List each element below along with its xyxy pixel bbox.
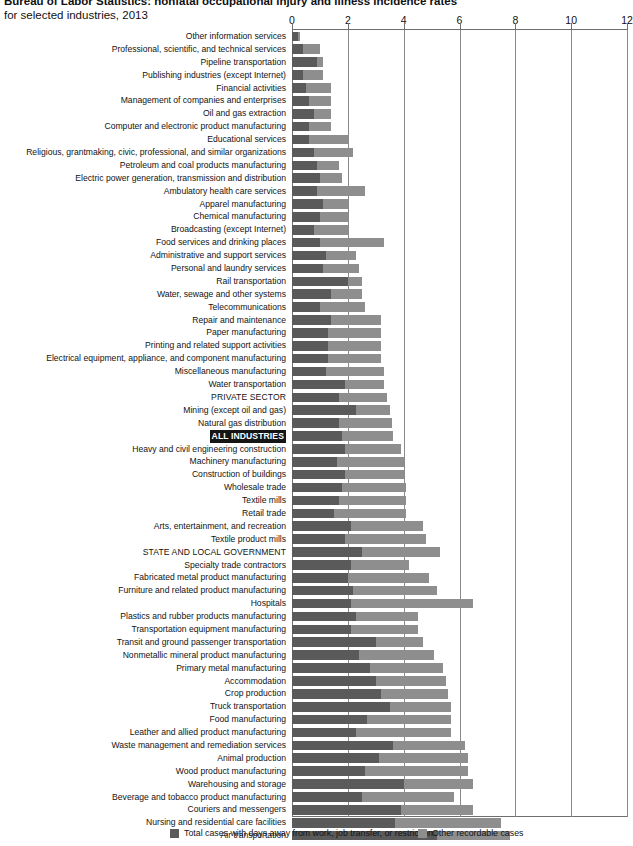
bar-segment-days-away <box>292 483 342 493</box>
bar-segment-other-recordable <box>339 496 406 506</box>
bar-segment-other-recordable <box>331 315 381 325</box>
stacked-bar <box>292 625 418 635</box>
bar-segment-other-recordable <box>320 302 365 312</box>
bar-row: Petroleum and coal products manufacturin… <box>0 159 631 172</box>
category-label: Food services and drinking places <box>156 236 286 249</box>
bar-segment-other-recordable <box>323 264 359 274</box>
bar-segment-other-recordable <box>342 431 392 441</box>
bar-row: Wholesale trade <box>0 481 631 494</box>
bar-segment-other-recordable <box>376 676 446 686</box>
x-tick-mark-12 <box>627 23 628 30</box>
category-label: Chemical manufacturing <box>193 210 286 223</box>
bar-segment-other-recordable <box>328 341 381 351</box>
bar-segment-other-recordable <box>303 44 320 54</box>
stacked-bar <box>292 779 473 789</box>
bar-segment-days-away <box>292 225 314 235</box>
bar-segment-other-recordable <box>339 418 392 428</box>
bar-segment-other-recordable <box>404 779 474 789</box>
bar-segment-days-away <box>292 509 334 519</box>
chart-title-line-1: Bureau of Labor Statistics: nonfatal occ… <box>4 0 564 9</box>
bar-segment-other-recordable <box>345 470 404 480</box>
bar-row: Religious, grantmaking, civic, professio… <box>0 146 631 159</box>
bar-row: Telecommunications <box>0 301 631 314</box>
stacked-bar <box>292 135 348 145</box>
bar-row: Electric power generation, transmission … <box>0 172 631 185</box>
legend-swatch-dark-icon <box>170 829 179 838</box>
bar-segment-other-recordable <box>362 547 440 557</box>
category-label: Food manufacturing <box>210 713 286 726</box>
stacked-bar <box>292 766 468 776</box>
category-label: Publishing industries (except Internet) <box>142 69 286 82</box>
category-label: Retail trade <box>242 507 286 520</box>
stacked-bar <box>292 418 392 428</box>
chart-title-line-2: for selected industries, 2013 <box>4 9 564 23</box>
bar-segment-other-recordable <box>320 212 348 222</box>
bar-segment-other-recordable <box>328 328 381 338</box>
legend-item-days-away: Total cases with days away from work, jo… <box>170 828 433 838</box>
bar-row: Computer and electronic product manufact… <box>0 120 631 133</box>
category-label: Warehousing and storage <box>188 778 286 791</box>
category-label: Beverage and tobacco product manufacturi… <box>112 791 286 804</box>
bar-segment-other-recordable <box>342 483 406 493</box>
bar-row: Oil and gas extraction <box>0 107 631 120</box>
bar-segment-other-recordable <box>326 367 385 377</box>
bar-segment-other-recordable <box>381 689 448 699</box>
bar-segment-other-recordable <box>345 534 426 544</box>
bar-segment-days-away <box>292 715 367 725</box>
bar-segment-days-away <box>292 302 320 312</box>
category-label: Printing and related support activities <box>145 339 286 352</box>
stacked-bar <box>292 792 454 802</box>
bar-segment-days-away <box>292 341 328 351</box>
category-label: Furniture and related product manufactur… <box>118 584 286 597</box>
category-label: Animal production <box>217 752 286 765</box>
stacked-bar <box>292 380 384 390</box>
bar-row: Financial activities <box>0 82 631 95</box>
bar-segment-other-recordable <box>323 199 348 209</box>
bar-segment-other-recordable <box>348 573 429 583</box>
bar-row: Publishing industries (except Internet) <box>0 69 631 82</box>
stacked-bar <box>292 251 356 261</box>
bar-row: Apparel manufacturing <box>0 198 631 211</box>
stacked-bar <box>292 225 348 235</box>
stacked-bar <box>292 650 434 660</box>
bar-segment-days-away <box>292 547 362 557</box>
bar-segment-days-away <box>292 57 317 67</box>
bar-segment-other-recordable <box>390 702 451 712</box>
bar-segment-days-away <box>292 676 376 686</box>
category-label: Transportation equipment manufacturing <box>132 623 286 636</box>
bar-row: Truck transportation <box>0 700 631 713</box>
bar-segment-other-recordable <box>314 225 348 235</box>
stacked-bar <box>292 161 339 171</box>
category-label: Educational services <box>207 133 286 146</box>
bar-segment-days-away <box>292 766 365 776</box>
bar-segment-days-away <box>292 702 390 712</box>
legend-item-other-recordable: Other recordable cases <box>418 828 523 838</box>
category-label: Religious, grantmaking, civic, professio… <box>26 146 286 159</box>
bar-segment-other-recordable <box>309 96 331 106</box>
bar-segment-days-away <box>292 792 362 802</box>
bar-segment-other-recordable <box>379 753 468 763</box>
stacked-bar <box>292 637 423 647</box>
legend-swatch-light-icon <box>418 829 427 838</box>
bar-segment-days-away <box>292 264 323 274</box>
bar-segment-days-away <box>292 496 339 506</box>
bar-segment-days-away <box>292 741 393 751</box>
bar-segment-days-away <box>292 251 326 261</box>
category-label: Miscellaneous manufacturing <box>175 365 286 378</box>
bar-row: Pipeline transportation <box>0 56 631 69</box>
category-label: Heavy and civil engineering construction <box>132 443 286 456</box>
bar-segment-other-recordable <box>393 741 466 751</box>
bar-row: ALL INDUSTRIES <box>0 430 631 443</box>
bar-segment-days-away <box>292 431 342 441</box>
bar-row: Animal production <box>0 752 631 765</box>
category-label: Textile mills <box>242 494 286 507</box>
category-label: Personal and laundry services <box>171 262 286 275</box>
stacked-bar <box>292 509 406 519</box>
stacked-bar <box>292 599 473 609</box>
stacked-bar <box>292 805 473 815</box>
bar-segment-days-away <box>292 521 351 531</box>
bar-segment-other-recordable <box>351 560 410 570</box>
stacked-bar <box>292 354 381 364</box>
bar-row: Personal and laundry services <box>0 262 631 275</box>
stacked-bar <box>292 689 448 699</box>
